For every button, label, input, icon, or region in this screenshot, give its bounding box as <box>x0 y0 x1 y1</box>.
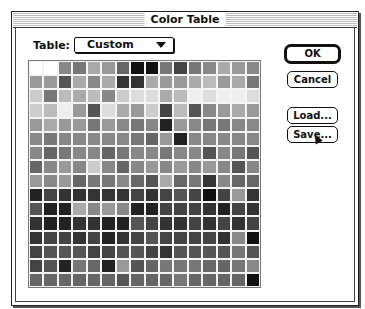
color-swatch[interactable] <box>146 260 158 272</box>
color-swatch[interactable] <box>160 274 172 286</box>
color-swatch[interactable] <box>102 217 114 229</box>
color-swatch[interactable] <box>59 274 71 286</box>
color-swatch[interactable] <box>174 62 186 74</box>
color-swatch[interactable] <box>203 232 215 244</box>
color-swatch[interactable] <box>232 175 244 187</box>
color-swatch[interactable] <box>247 147 259 159</box>
color-swatch[interactable] <box>146 119 158 131</box>
color-swatch[interactable] <box>131 189 143 201</box>
color-swatch[interactable] <box>189 203 201 215</box>
color-swatch[interactable] <box>218 274 230 286</box>
color-swatch[interactable] <box>232 76 244 88</box>
color-swatch[interactable] <box>59 246 71 258</box>
color-swatch[interactable] <box>59 147 71 159</box>
color-swatch[interactable] <box>30 189 42 201</box>
color-swatch[interactable] <box>73 62 85 74</box>
color-swatch[interactable] <box>232 133 244 145</box>
color-swatch[interactable] <box>88 76 100 88</box>
color-swatch[interactable] <box>131 175 143 187</box>
color-swatch[interactable] <box>44 76 56 88</box>
color-swatch[interactable] <box>117 260 129 272</box>
color-swatch[interactable] <box>160 104 172 116</box>
color-swatch[interactable] <box>131 161 143 173</box>
color-swatch[interactable] <box>117 119 129 131</box>
color-swatch[interactable] <box>146 76 158 88</box>
color-swatch[interactable] <box>218 246 230 258</box>
color-swatch[interactable] <box>131 133 143 145</box>
color-swatch[interactable] <box>247 104 259 116</box>
color-swatch[interactable] <box>203 246 215 258</box>
color-swatch[interactable] <box>146 175 158 187</box>
color-swatch[interactable] <box>88 62 100 74</box>
color-swatch[interactable] <box>44 104 56 116</box>
color-swatch[interactable] <box>73 175 85 187</box>
color-swatch[interactable] <box>189 133 201 145</box>
color-swatch[interactable] <box>174 90 186 102</box>
load-button[interactable]: Load... <box>287 107 338 124</box>
color-swatch[interactable] <box>117 246 129 258</box>
color-swatch[interactable] <box>59 62 71 74</box>
color-swatch[interactable] <box>203 189 215 201</box>
color-swatch[interactable] <box>160 246 172 258</box>
color-swatch[interactable] <box>30 246 42 258</box>
color-swatch[interactable] <box>30 90 42 102</box>
color-swatch[interactable] <box>131 203 143 215</box>
color-swatch[interactable] <box>189 246 201 258</box>
color-swatch[interactable] <box>59 175 71 187</box>
color-swatch[interactable] <box>174 232 186 244</box>
color-swatch[interactable] <box>44 119 56 131</box>
color-swatch[interactable] <box>73 203 85 215</box>
color-swatch[interactable] <box>174 161 186 173</box>
color-swatch[interactable] <box>203 133 215 145</box>
color-swatch[interactable] <box>131 232 143 244</box>
color-swatch[interactable] <box>247 274 259 286</box>
color-swatch[interactable] <box>131 104 143 116</box>
color-swatch[interactable] <box>218 203 230 215</box>
color-swatch[interactable] <box>146 203 158 215</box>
color-swatch[interactable] <box>189 260 201 272</box>
table-popup-menu[interactable]: Custom <box>74 37 174 53</box>
color-swatch[interactable] <box>59 119 71 131</box>
color-swatch[interactable] <box>44 260 56 272</box>
color-swatch[interactable] <box>44 62 56 74</box>
color-swatch[interactable] <box>102 119 114 131</box>
color-swatch[interactable] <box>30 217 42 229</box>
color-swatch[interactable] <box>88 189 100 201</box>
color-swatch[interactable] <box>59 203 71 215</box>
color-swatch[interactable] <box>203 161 215 173</box>
color-swatch[interactable] <box>102 246 114 258</box>
color-swatch[interactable] <box>174 260 186 272</box>
color-swatch[interactable] <box>30 203 42 215</box>
color-swatch[interactable] <box>146 161 158 173</box>
color-swatch[interactable] <box>160 203 172 215</box>
color-swatch[interactable] <box>102 175 114 187</box>
color-swatch[interactable] <box>117 232 129 244</box>
color-swatch[interactable] <box>174 189 186 201</box>
color-swatch[interactable] <box>102 232 114 244</box>
color-swatch[interactable] <box>189 217 201 229</box>
color-swatch[interactable] <box>131 217 143 229</box>
color-swatch[interactable] <box>146 246 158 258</box>
color-swatch[interactable] <box>146 133 158 145</box>
color-swatch[interactable] <box>73 246 85 258</box>
color-swatch[interactable] <box>232 232 244 244</box>
color-swatch[interactable] <box>117 90 129 102</box>
color-swatch[interactable] <box>30 161 42 173</box>
color-swatch[interactable] <box>73 119 85 131</box>
color-swatch[interactable] <box>146 62 158 74</box>
color-swatch[interactable] <box>232 161 244 173</box>
color-swatch[interactable] <box>88 246 100 258</box>
color-swatch[interactable] <box>160 119 172 131</box>
color-swatch[interactable] <box>30 175 42 187</box>
color-swatch[interactable] <box>160 232 172 244</box>
color-swatch[interactable] <box>146 189 158 201</box>
color-swatch[interactable] <box>203 274 215 286</box>
color-swatch[interactable] <box>102 203 114 215</box>
color-swatch[interactable] <box>232 274 244 286</box>
color-swatch[interactable] <box>131 76 143 88</box>
color-swatch[interactable] <box>160 189 172 201</box>
color-swatch[interactable] <box>131 147 143 159</box>
color-swatch[interactable] <box>30 133 42 145</box>
color-swatch[interactable] <box>174 175 186 187</box>
color-swatch[interactable] <box>232 90 244 102</box>
